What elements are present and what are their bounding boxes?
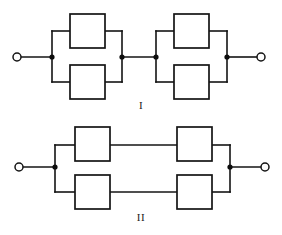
- component-box-4: [174, 65, 209, 99]
- component-box-3: [75, 175, 110, 209]
- component-box-4: [177, 175, 212, 209]
- diagram-II-label: II: [0, 211, 282, 223]
- junction-node-right: [227, 164, 232, 169]
- diagram-I-label: I: [0, 99, 282, 111]
- junction-node-left: [52, 164, 57, 169]
- terminal-left-terminal: [15, 163, 23, 171]
- junction-node-c: [153, 54, 158, 59]
- terminal-left-terminal: [13, 53, 21, 61]
- component-box-3: [174, 14, 209, 48]
- diagram-II-group: [15, 127, 269, 209]
- junction-node-a: [49, 54, 54, 59]
- terminal-right-terminal: [261, 163, 269, 171]
- circuit-diagram-svg: [0, 0, 282, 235]
- diagram-I-group: [13, 14, 265, 99]
- terminal-right-terminal: [257, 53, 265, 61]
- component-box-1: [75, 127, 110, 161]
- component-box-2: [177, 127, 212, 161]
- component-box-2: [70, 65, 105, 99]
- junction-node-d: [224, 54, 229, 59]
- junction-node-b: [119, 54, 124, 59]
- figure-canvas: I II: [0, 0, 282, 235]
- component-box-1: [70, 14, 105, 48]
